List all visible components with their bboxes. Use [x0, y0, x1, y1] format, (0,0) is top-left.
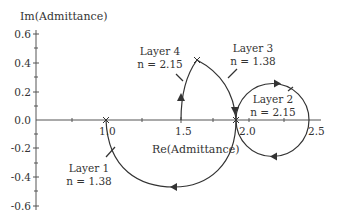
y-tick-labels: 0.6 0.4 0.2 0.0 -0.2 -0.4 -0.6 — [11, 28, 32, 212]
svg-text:0.2: 0.2 — [14, 86, 31, 98]
layer-3-label: Layer 3 — [233, 42, 273, 54]
arrow-up-icon — [177, 93, 185, 101]
svg-text:0.0: 0.0 — [14, 114, 31, 126]
svg-text:0.4: 0.4 — [14, 57, 31, 69]
arrow-left-icon — [270, 153, 277, 161]
layer-1-index: n = 1.38 — [66, 175, 112, 187]
x-tick-labels: 1.0 1.5 2.0 2.5 — [99, 125, 325, 137]
layer-1-label: Layer 1 — [69, 162, 109, 174]
svg-text:-0.4: -0.4 — [11, 171, 32, 183]
svg-text:1.5: 1.5 — [175, 125, 192, 137]
x-axis-title: Re(Admittance) — [152, 143, 239, 156]
admittance-locus-chart: Im(Admittance) Re(Admittance) 0.6 0.4 0.… — [0, 0, 342, 223]
arrow-right-icon — [274, 80, 281, 88]
svg-text:2.0: 2.0 — [239, 125, 256, 137]
layer-3-curve — [197, 60, 236, 120]
arrow-left-icon — [170, 183, 177, 191]
svg-text:2.5: 2.5 — [308, 125, 325, 137]
arrow-down-icon — [231, 107, 239, 115]
y-axis-title: Im(Admittance) — [20, 10, 107, 23]
layer-4-curve — [181, 60, 197, 120]
svg-text:-0.2: -0.2 — [11, 142, 31, 154]
layer-2-label: Layer 2 — [253, 93, 293, 105]
svg-text:0.6: 0.6 — [14, 28, 31, 40]
layer-3-index: n = 1.38 — [230, 55, 276, 67]
layer-2-index: n = 2.15 — [250, 106, 296, 118]
layer-4-index: n = 2.15 — [137, 58, 183, 70]
svg-text:-0.6: -0.6 — [11, 200, 32, 212]
layer-4-label: Layer 4 — [140, 45, 181, 57]
